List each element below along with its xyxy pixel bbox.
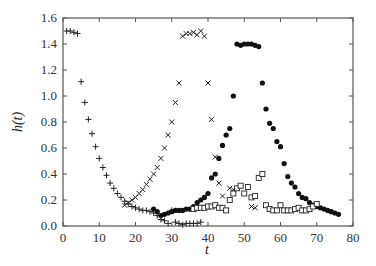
y-axis-label: h(t) — [10, 112, 26, 133]
y-tick-label: 0.4 — [41, 166, 58, 181]
y-tick-label: 1.0 — [41, 88, 57, 103]
y-tick-label: 1.2 — [41, 62, 57, 77]
scatter-chart: 01020304050607080 0.00.20.40.60.81.01.21… — [0, 0, 376, 266]
x-tick-label: 60 — [274, 230, 287, 245]
x-tick-label: 80 — [347, 230, 360, 245]
x-axis-ticks: 01020304050607080 — [60, 18, 360, 245]
y-tick-label: 0.6 — [41, 140, 58, 155]
series-cross — [122, 29, 258, 211]
x-tick-label: 10 — [93, 230, 106, 245]
x-tick-label: 70 — [310, 230, 323, 245]
data-points — [64, 28, 341, 228]
y-tick-label: 0.8 — [41, 114, 57, 129]
x-tick-label: 20 — [129, 230, 142, 245]
x-tick-label: 30 — [165, 230, 178, 245]
y-tick-label: 1.4 — [41, 36, 58, 51]
x-tick-label: 0 — [60, 230, 67, 245]
x-tick-label: 50 — [238, 230, 251, 245]
y-tick-label: 0.2 — [41, 192, 57, 207]
y-tick-label: 0.0 — [41, 218, 57, 233]
y-tick-label: 1.6 — [41, 10, 58, 25]
